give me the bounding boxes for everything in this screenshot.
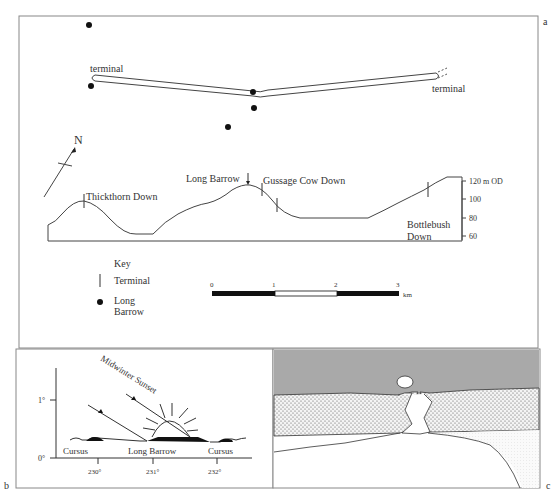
panel-b-letter: b <box>4 480 9 491</box>
long-barrow-dot <box>86 22 92 28</box>
legend-long-barrow-2: Barrow <box>114 306 145 317</box>
setting-sun-icon <box>397 376 413 388</box>
legend-title: Key <box>114 258 131 269</box>
legend-terminal: Terminal <box>114 275 150 286</box>
legend: Key Terminal Long Barrow <box>97 258 150 317</box>
x-tick-232: 232° <box>208 468 222 476</box>
panel-b: b 1° 0° 230° 231° 232° <box>4 349 273 491</box>
panel-b-border <box>16 349 273 488</box>
north-label: N <box>74 133 83 147</box>
panel-c-letter: c <box>546 480 551 491</box>
legend-long-barrow-1: Long <box>114 295 135 306</box>
terminal-west-label: terminal <box>90 63 124 74</box>
long-barrow-label: Long Barrow <box>186 173 240 184</box>
scale-tick-3: 3 <box>396 281 400 289</box>
north-arrow-icon <box>44 147 76 197</box>
hill-right <box>420 388 539 432</box>
hill-left <box>274 392 418 436</box>
terrain-profile <box>48 173 466 241</box>
scale-tick-1: 1 <box>272 281 276 289</box>
thickthorn-down-label: Thickthorn Down <box>86 191 157 202</box>
x-tick-230: 230° <box>88 468 102 476</box>
axis-tick-120: 120 m OD <box>469 177 503 186</box>
long-barrow-dot <box>251 105 257 111</box>
long-barrow-key-icon <box>97 299 103 305</box>
scale-unit: km <box>403 291 413 299</box>
cursus-plan <box>92 68 447 97</box>
long-barrow-label-b: Long Barrow <box>128 446 177 456</box>
scale-bar: 0 1 2 3 km <box>210 281 413 299</box>
figure-canvas: a terminal terminal N <box>0 0 560 500</box>
long-barrow-dot <box>250 89 256 95</box>
panel-a: a terminal terminal N <box>19 16 548 348</box>
long-barrow-dot <box>225 124 231 130</box>
panel-a-letter: a <box>543 16 548 27</box>
axis-tick-100: 100 <box>469 195 481 204</box>
y-tick-1deg: 1° <box>38 396 45 405</box>
axis-tick-80: 80 <box>469 214 477 223</box>
terminal-east-label: terminal <box>432 83 466 94</box>
gussage-cow-down-label: Gussage Cow Down <box>263 175 345 186</box>
scale-tick-0: 0 <box>210 281 214 289</box>
cursus-right-label: Cursus <box>208 446 234 456</box>
bottlebush-down-label-2: Down <box>407 231 431 242</box>
x-tick-231: 231° <box>146 468 160 476</box>
cursus-left-label: Cursus <box>63 446 89 456</box>
axis-tick-60: 60 <box>469 232 477 241</box>
panel-c: c <box>273 349 551 491</box>
scale-tick-2: 2 <box>334 281 338 289</box>
bottlebush-down-label-1: Bottlebush <box>407 219 450 230</box>
long-barrow-dot <box>88 83 94 89</box>
y-tick-0deg: 0° <box>38 454 45 463</box>
